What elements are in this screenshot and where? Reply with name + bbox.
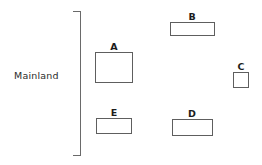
parcel-d-label: D [188, 108, 196, 119]
bracket-tick-top [73, 11, 81, 12]
bracket-spine [80, 11, 81, 156]
parcel-b-label: B [188, 11, 195, 22]
diagram-canvas: Mainland ABCDE [0, 0, 262, 165]
parcel-a[interactable] [95, 52, 133, 83]
parcel-b[interactable] [170, 22, 215, 36]
parcel-c-label: C [238, 61, 245, 72]
parcel-d[interactable] [172, 119, 213, 136]
parcel-c[interactable] [233, 72, 249, 88]
parcel-e[interactable] [96, 118, 132, 134]
mainland-label: Mainland [14, 70, 59, 81]
parcel-a-label: A [110, 41, 117, 52]
parcel-e-label: E [111, 107, 118, 118]
bracket-tick-bottom [73, 155, 81, 156]
